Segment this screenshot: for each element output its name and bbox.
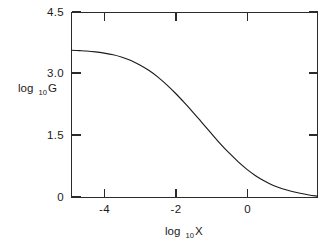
y-axis-ticks [72, 12, 318, 198]
x-axis-ticks [105, 13, 248, 198]
x-axis-title-variable: X [195, 225, 203, 237]
y-axis-title-variable: G [48, 82, 57, 94]
y-tick-label-4: 4.5 [47, 6, 64, 18]
data-curve-series-1 [72, 50, 318, 196]
axes-frame [72, 13, 318, 198]
chart-svg: 4.5 3.0 1.5 0 -4 -2 0 log 10 G log 10 X [0, 0, 328, 243]
chart-figure: 4.5 3.0 1.5 0 -4 -2 0 log 10 G log 10 X [0, 0, 328, 243]
x-tick-label-1: -4 [99, 203, 110, 215]
y-tick-label-2: 1.5 [47, 129, 64, 141]
y-axis-title-subscript: 10 [39, 88, 47, 97]
x-tick-label-3: 0 [244, 203, 251, 215]
y-axis-title: log 10 G [18, 82, 57, 97]
y-axis-title-base: log [18, 82, 33, 94]
x-axis-title-subscript: 10 [186, 231, 194, 240]
x-axis-title-base: log [165, 225, 180, 237]
y-tick-labels: 4.5 3.0 1.5 0 [47, 6, 64, 203]
x-tick-labels: -4 -2 0 [99, 203, 251, 215]
x-tick-label-2: -2 [171, 203, 182, 215]
y-tick-label-3: 3.0 [47, 67, 64, 79]
y-tick-label-1: 0 [57, 191, 64, 203]
x-axis-title: log 10 X [165, 225, 203, 240]
